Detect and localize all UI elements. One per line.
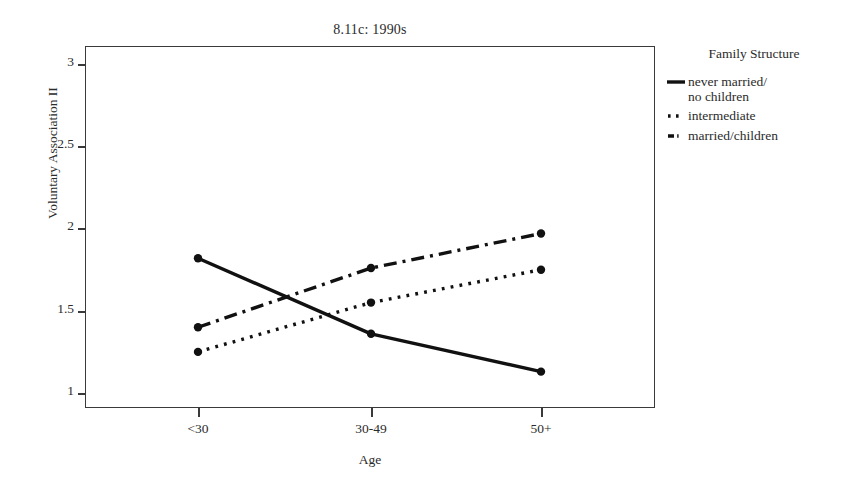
data-point-s1-p0 (194, 348, 202, 356)
series-line-0 (198, 258, 541, 371)
data-point-s2-p0 (194, 323, 202, 331)
legend-item-married-children[interactable]: married/children (666, 128, 841, 144)
plot-series-canvas (85, 46, 655, 408)
legend-label-intermediate: intermediate (688, 108, 755, 123)
data-point-s1-p1 (367, 298, 375, 306)
dash-dot-line-icon (666, 128, 686, 144)
y-tick-3: 3 (0, 64, 85, 65)
y-tick-label-1_5: 1.5 (57, 301, 74, 317)
x-tick-mark-50plus (541, 408, 543, 417)
y-tick-label-3: 3 (67, 54, 74, 70)
y-tick-label-2_5: 2.5 (57, 136, 74, 152)
legend-label-never-married: never married/ no children (688, 74, 767, 104)
x-tick-mark-under30 (198, 408, 200, 417)
y-tick-1_5: 1.5 (0, 311, 85, 312)
y-tick-mark-3 (78, 64, 85, 66)
data-point-s0-p1 (367, 330, 375, 338)
chart-title: 8.11c: 1990s (85, 22, 655, 38)
chart-figure: 8.11c: 1990s Voluntary Association II 3 … (0, 0, 843, 489)
y-tick-2: 2 (0, 228, 85, 229)
legend-label-married-children: married/children (688, 128, 778, 143)
y-tick-mark-2 (78, 228, 85, 230)
solid-line-icon (666, 74, 686, 90)
data-point-s0-p0 (194, 254, 202, 262)
data-point-s2-p1 (367, 264, 375, 272)
data-point-s0-p2 (537, 367, 545, 375)
y-tick-mark-1_5 (78, 311, 85, 313)
legend-item-never-married[interactable]: never married/ no children (666, 74, 841, 104)
x-tick-label-30-49: 30-49 (331, 421, 411, 437)
legend-label-line1: never married/ (688, 74, 767, 89)
y-tick-mark-2_5 (78, 146, 85, 148)
legend-item-intermediate[interactable]: intermediate (666, 108, 841, 124)
y-tick-2_5: 2.5 (0, 146, 85, 147)
y-tick-label-2: 2 (67, 218, 74, 234)
x-tick-label-50plus: 50+ (501, 421, 581, 437)
y-tick-label-1: 1 (67, 383, 74, 399)
x-axis-label: Age (85, 452, 655, 468)
dotted-line-icon (666, 108, 686, 124)
y-tick-mark-1 (78, 393, 85, 395)
legend: Family Structure never married/ no child… (666, 46, 841, 148)
legend-label-line2: no children (688, 89, 749, 104)
y-tick-1: 1 (0, 393, 85, 394)
x-tick-label-under30: <30 (158, 421, 238, 437)
data-point-s1-p2 (537, 266, 545, 274)
y-axis-label: Voluntary Association II (45, 38, 61, 268)
x-tick-mark-30-49 (371, 408, 373, 417)
data-point-s2-p2 (537, 229, 545, 237)
legend-title: Family Structure (674, 46, 834, 62)
